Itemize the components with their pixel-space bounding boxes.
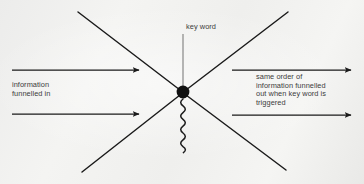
funnel-line-upper-left bbox=[78, 12, 180, 90]
input-caption: information funnelled in bbox=[12, 81, 50, 98]
key-word-label: key word bbox=[186, 23, 216, 32]
key-word-node bbox=[177, 86, 190, 99]
diagram-page: key word information funnelled in same o… bbox=[0, 0, 364, 184]
trigger-squiggle bbox=[181, 99, 186, 153]
output-caption: same order of information funnelled out … bbox=[256, 73, 326, 108]
funnel-line-lower-left bbox=[82, 95, 180, 172]
